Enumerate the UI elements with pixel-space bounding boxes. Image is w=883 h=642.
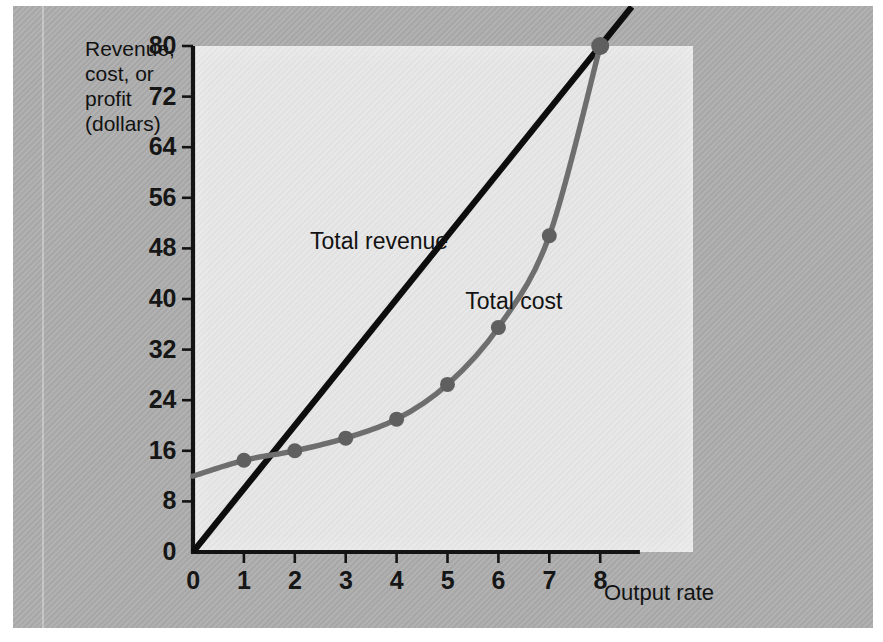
x-tick-label: 0 xyxy=(168,566,218,595)
figure-panel: 08162432404856647280 012345678 Revenue, … xyxy=(13,6,873,628)
y-tick-label: 64 xyxy=(98,132,176,161)
total-cost-data-point xyxy=(236,453,251,468)
axis-lines xyxy=(193,46,640,552)
total-revenue-line xyxy=(193,7,632,552)
y-tick-label: 40 xyxy=(98,284,176,313)
total-cost-data-point xyxy=(491,320,506,335)
x-tick-label: 3 xyxy=(321,566,371,595)
y-tick-label: 48 xyxy=(98,233,176,262)
total-revenue-label: Total revenue xyxy=(310,228,448,255)
y-tick-label: 8 xyxy=(98,486,176,515)
total-cost-data-point xyxy=(440,377,455,392)
x-tick-label: 5 xyxy=(423,566,473,595)
total-revenue-series xyxy=(193,7,632,552)
y-tick-label: 32 xyxy=(98,335,176,364)
axes-group xyxy=(193,46,640,552)
total-cost-label: Total cost xyxy=(465,288,562,315)
total-cost-data-point xyxy=(287,443,302,458)
x-tick-label: 6 xyxy=(473,566,523,595)
y-tick-label: 16 xyxy=(98,436,176,465)
x-axis-title: Output rate xyxy=(604,580,714,605)
x-tick-label: 7 xyxy=(524,566,574,595)
x-tick-label: 1 xyxy=(219,566,269,595)
x-tick-label: 2 xyxy=(270,566,320,595)
y-tick-label: 0 xyxy=(98,537,176,566)
total-cost-curve xyxy=(193,46,600,476)
y-axis-title: Revenue, cost, or profit (dollars) xyxy=(85,36,205,136)
y-tick-label: 56 xyxy=(98,183,176,212)
x-tick-label: 4 xyxy=(372,566,422,595)
y-tick-label: 24 xyxy=(98,385,176,414)
total-cost-series xyxy=(193,46,600,476)
total-cost-data-point xyxy=(338,431,353,446)
total-cost-data-point xyxy=(542,228,557,243)
total-cost-data-point xyxy=(591,37,609,55)
total-cost-data-point xyxy=(389,412,404,427)
